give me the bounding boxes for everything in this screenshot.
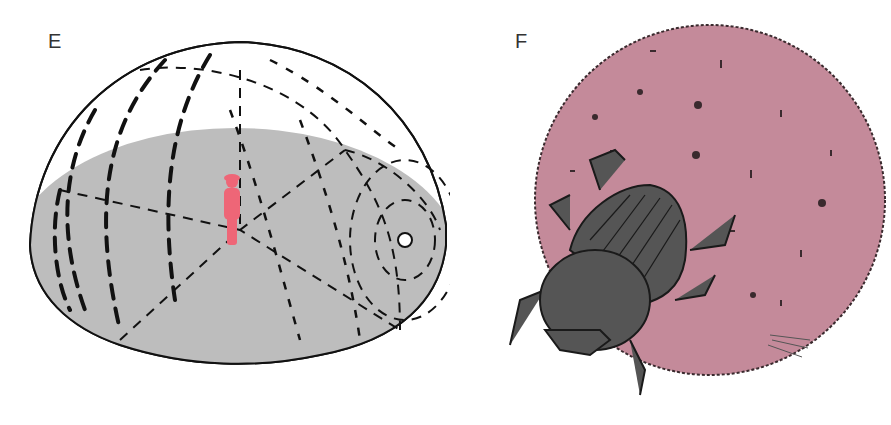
panel-e: E — [0, 0, 450, 425]
dome-diagram — [0, 0, 450, 425]
dung-beetle-illustration — [450, 0, 891, 425]
beetle-head — [545, 330, 610, 355]
panel-f: F — [450, 0, 891, 425]
celestial-pole — [398, 233, 412, 247]
ground-disc — [10, 128, 450, 392]
